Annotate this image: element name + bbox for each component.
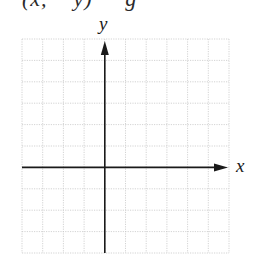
- y-axis-label: y: [99, 14, 107, 33]
- y-axis-arrow-icon: [101, 41, 109, 55]
- coordinate-grid: [0, 0, 256, 265]
- grid-lines: [22, 39, 229, 253]
- x-axis-arrow-icon: [214, 163, 228, 171]
- x-axis-label: x: [236, 156, 244, 175]
- axes: [22, 41, 228, 253]
